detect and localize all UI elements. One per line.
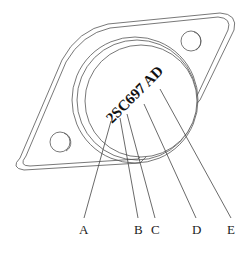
label-d: D <box>192 222 201 237</box>
label-b: B <box>134 222 143 237</box>
label-a: A <box>79 222 89 237</box>
label-c: C <box>151 222 160 237</box>
transistor-diagram: 2SC697 AD A B C D E <box>0 0 247 254</box>
mounting-hole-left <box>50 132 71 152</box>
mounting-hole-right <box>181 31 201 51</box>
label-e: E <box>227 222 235 237</box>
cap-circle <box>85 45 197 157</box>
